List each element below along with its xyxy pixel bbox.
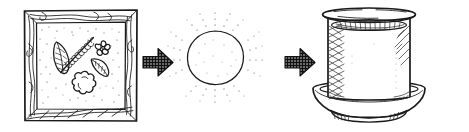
diagram-canvas: Potpourri to scented candle process Fram… — [0, 0, 469, 132]
picture-frame — [25, 10, 138, 121]
panel-aromatic-sphere — [168, 13, 263, 103]
panel-framed-botanicals — [0, 0, 469, 132]
radiating-stipple-rays — [168, 13, 263, 103]
panel-candle-in-saucer — [313, 8, 425, 122]
arrow-one — [143, 49, 173, 77]
arrow-two — [285, 49, 315, 77]
candle-rim — [323, 8, 416, 23]
irregular-circle — [187, 31, 243, 85]
